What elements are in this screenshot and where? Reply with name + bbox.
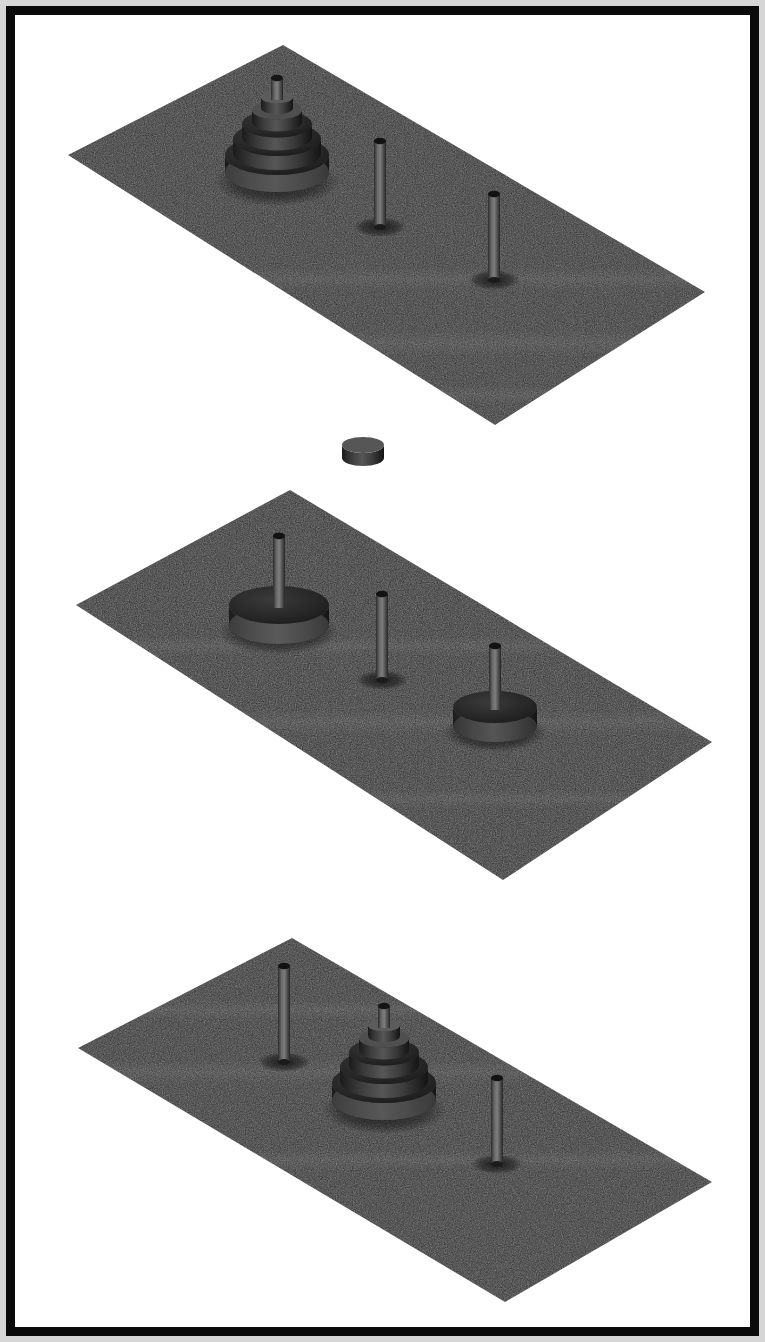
peg-tip [271,78,283,100]
peg-shaft [488,194,500,280]
peg-foot [488,277,500,283]
render-canvas [0,0,765,1342]
peg-foot [376,677,388,683]
peg-cap [271,75,283,81]
peg-cap-front [273,533,285,539]
peg-cap [491,1075,503,1081]
peg-foot [278,1059,290,1065]
peg-shaft-front [489,646,501,710]
peg-cap [278,963,290,969]
peg-cap [374,138,386,144]
peg-shaft [376,594,388,680]
peg-cap-front [489,643,501,649]
peg-cap [376,591,388,597]
peg-shaft [374,141,386,227]
peg-shaft [278,966,290,1062]
floating-disk-top [342,437,384,453]
peg-foot [491,1161,503,1167]
floating-disk[interactable] [342,437,384,466]
peg-foot [374,224,386,230]
peg-cap [488,191,500,197]
peg-cap [378,1003,390,1009]
peg-shaft [491,1078,503,1164]
page-root: Tower of Hanoi 3D Render Three isometric… [0,0,765,1342]
peg-shaft-front [273,536,285,608]
peg-tip [378,1006,390,1028]
